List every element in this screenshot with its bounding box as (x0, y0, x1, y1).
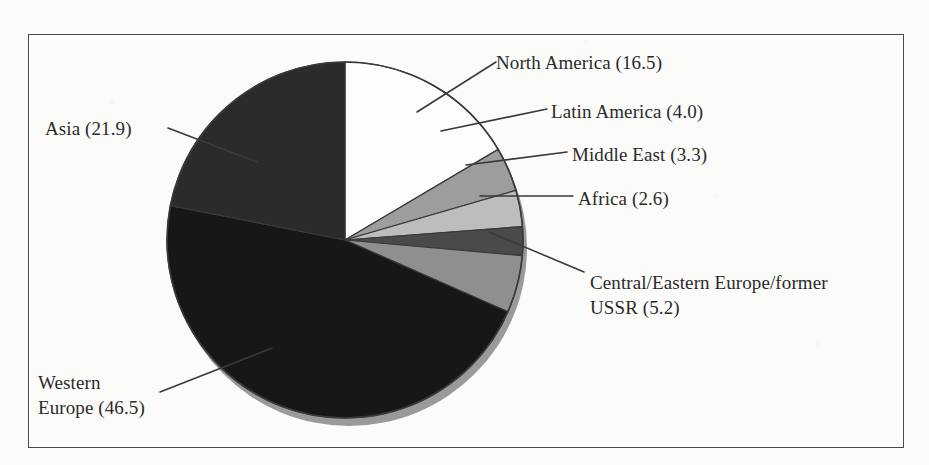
slice-label-africa: Africa (2.6) (578, 186, 669, 211)
slice-label-north-america: North America (16.5) (496, 50, 662, 75)
slice-label-western-europe-line2: Europe (46.5) (38, 395, 145, 420)
slice-label-central-eastern-europe-line2: USSR (5.2) (590, 295, 680, 320)
pie-slice-group (167, 62, 523, 418)
slice-label-western-europe-line1: Western (38, 370, 100, 395)
slice-label-central-eastern-europe-line1: Central/Eastern Europe/former (590, 270, 828, 295)
pie-chart-figure: North America (16.5) Latin America (4.0)… (0, 0, 929, 465)
slice-label-asia: Asia (21.9) (45, 116, 132, 141)
slice-label-latin-america: Latin America (4.0) (551, 99, 703, 124)
slice-label-middle-east: Middle East (3.3) (572, 142, 707, 167)
